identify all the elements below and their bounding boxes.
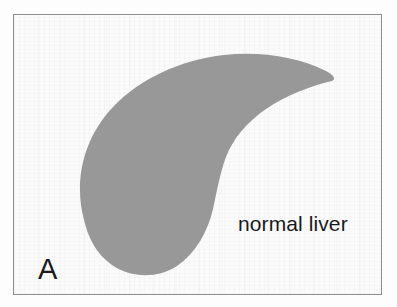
liver-diagram-canvas [14, 15, 382, 295]
organ-annotation-label: normal liver [238, 213, 348, 234]
figure-panel-a: normal liver A [13, 14, 382, 295]
figure-root: normal liver A [0, 0, 397, 307]
panel-letter-label: A [38, 255, 58, 284]
liver-silhouette-icon [80, 54, 334, 275]
